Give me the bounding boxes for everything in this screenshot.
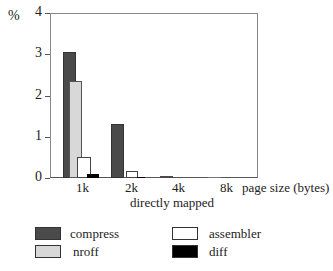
x-tick-label: 4k [172,180,185,196]
legend-swatch-nroff [35,245,61,258]
y-tick-label: 4 [22,4,42,20]
bar-compress-4k [160,176,173,178]
y-tick-mark [45,178,50,179]
legend-label: compress [70,226,119,242]
legend-label: nroff [73,244,99,260]
legend-swatch-compress [35,227,61,240]
y-tick-mark [45,54,50,55]
y-tick-mark [45,137,50,138]
legend-swatch-diff [172,245,198,258]
y-tick-mark [45,13,50,14]
x-axis-title: page size (bytes) [242,180,329,196]
y-tick-label: 2 [22,87,42,103]
bar-compress-2k [111,124,124,178]
bar-diff-2k [137,177,145,178]
y-tick-mark [45,96,50,97]
bar-compress-8k [208,177,221,178]
legend-label: assembler [209,226,261,242]
legend-label: diff [209,244,228,260]
y-tick-label: 3 [22,45,42,61]
x-tick-label: 8k [220,180,233,196]
x-tick-label: 2k [125,180,138,196]
chart-caption: directly mapped [130,195,214,211]
legend-swatch-assembler [172,227,198,240]
y-axis-unit: % [8,8,20,24]
x-tick-label: 1k [76,180,89,196]
bar-assembler-4k [174,177,184,178]
y-tick-label: 1 [22,128,42,144]
y-tick-label: 0 [22,169,42,185]
bar-diff-1k [87,174,99,178]
